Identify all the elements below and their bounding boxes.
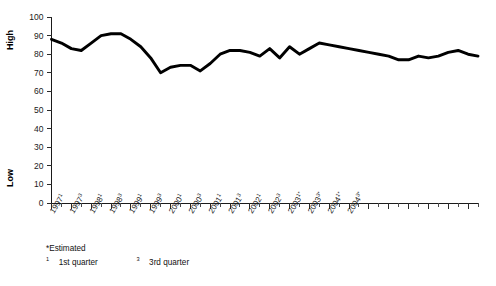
y-axis-tick-label: 100 xyxy=(29,12,43,22)
y-axis-tick-label: 30 xyxy=(34,142,44,152)
chart-container: 0102030405060708090100HighLow19971199731… xyxy=(0,0,496,286)
y-axis-tick-label: 20 xyxy=(34,161,44,171)
x-axis-tick-label: 20033* xyxy=(305,190,326,215)
x-axis-tick-label: 20003 xyxy=(186,192,206,215)
y-axis-tick-label: 50 xyxy=(34,105,44,115)
footnote-estimated: *Estimated xyxy=(46,243,189,254)
x-axis-tick-label: 20001 xyxy=(166,192,186,215)
y-axis-tick-label: 10 xyxy=(34,179,44,189)
x-axis-tick-label: 19971 xyxy=(47,192,67,215)
x-axis-tick-label: 20031* xyxy=(285,190,306,215)
x-axis-tick-label: 19993 xyxy=(146,192,166,215)
y-axis-label-high: High xyxy=(5,30,15,50)
data-series-line xyxy=(52,34,479,73)
cropped-source-line xyxy=(8,277,238,282)
x-axis-tick-label: 20011 xyxy=(206,192,226,215)
y-axis-tick-label: 80 xyxy=(34,49,44,59)
x-axis-tick-label: 20023 xyxy=(265,192,285,215)
x-axis-tick-label: 20013 xyxy=(226,192,246,215)
footnote-q3-marker: 3 xyxy=(136,256,139,262)
footnote-q3-text: 3rd quarter xyxy=(149,258,189,267)
footnote-q1-marker: 1 xyxy=(46,256,49,262)
x-axis-tick-label: 19981 xyxy=(87,192,107,215)
y-axis-tick-label: 0 xyxy=(39,198,44,208)
footnote-quarters: 1 1st quarter 3 3rd quarter xyxy=(46,254,189,268)
y-axis-label-low: Low xyxy=(5,168,15,187)
x-axis-tick-label: 19973 xyxy=(67,192,87,215)
y-axis-tick-label: 60 xyxy=(34,86,44,96)
y-axis-tick-label: 70 xyxy=(34,68,44,78)
y-axis-tick-label: 90 xyxy=(34,31,44,41)
x-axis-tick-label: 19983 xyxy=(107,192,127,215)
y-axis-tick-label: 40 xyxy=(34,124,44,134)
chart-footnotes: *Estimated 1 1st quarter 3 3rd quarter xyxy=(46,243,189,268)
x-axis-tick-label: 20043* xyxy=(345,190,366,215)
footnote-q1-text: 1st quarter xyxy=(59,258,98,267)
x-axis-tick-label: 20021 xyxy=(246,192,266,215)
x-axis-tick-label: 19991 xyxy=(127,192,147,215)
x-axis-tick-label: 20041* xyxy=(325,190,346,215)
